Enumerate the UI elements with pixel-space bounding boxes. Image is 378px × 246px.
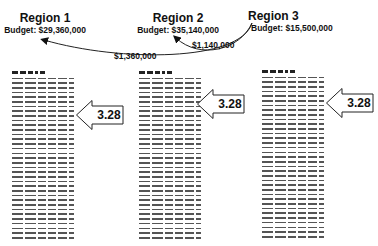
callout-value: 3.28: [96, 107, 122, 123]
text-column-3: [262, 70, 324, 239]
region-budget: Budget: $35,140,000: [136, 25, 220, 35]
placeholder-text-row: [139, 235, 201, 240]
callout-arrow-1: 3.28: [76, 100, 124, 130]
transfer-label-region1: $1,360,000: [114, 51, 157, 61]
region-1: Region 1 Budget: $29,360,000: [4, 12, 86, 35]
region-2: Region 2 Budget: $35,140,000: [136, 12, 220, 35]
column-header-blocks: [12, 71, 74, 74]
transfer-label-region2: $1,140,000: [192, 40, 235, 50]
column-header-blocks: [262, 70, 324, 73]
callout-value: 3.28: [217, 96, 243, 112]
callout-value: 3.28: [346, 95, 372, 111]
placeholder-text-row: [12, 235, 74, 240]
region-name: Region 1: [4, 12, 86, 25]
callout-arrow-3: 3.28: [326, 88, 374, 118]
region-budget: Budget: $15,500,000: [248, 23, 336, 33]
column-header-blocks: [139, 71, 201, 74]
text-column-1: [12, 71, 74, 240]
region-name: Region 3: [248, 10, 336, 23]
callout-arrow-2: 3.28: [197, 89, 245, 119]
region-3: Region 3 Budget: $15,500,000: [248, 10, 336, 33]
text-column-2: [139, 71, 201, 240]
placeholder-text-row: [262, 234, 324, 239]
region-budget: Budget: $29,360,000: [4, 25, 86, 35]
region-name: Region 2: [136, 12, 220, 25]
